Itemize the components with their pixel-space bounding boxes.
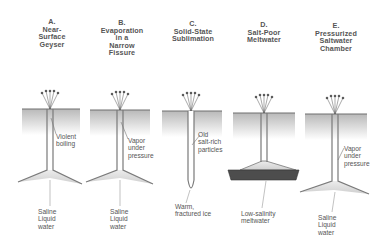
label-vapor-under-pressure-b: Vapor under pressure [128, 137, 154, 159]
annotation-line: Vapor [128, 137, 154, 144]
annotation-line: Old [198, 131, 223, 138]
label-saline-liquid-water-e: Saline Liquid water [318, 214, 336, 236]
label-warm-fractured-ice: Warm, fractured ice [175, 203, 211, 218]
annotation-line: pressure [128, 152, 154, 159]
annotation-line: Vapor [344, 145, 370, 152]
annotation-line: Liquid [110, 215, 128, 222]
label-violent-boiling: Violent boiling [56, 133, 76, 148]
annotation-line: under [128, 144, 154, 151]
label-low-salinity-meltwater: Low-salinity meltwater [241, 210, 275, 225]
plume-icon [41, 90, 59, 109]
annotation-line: under [344, 152, 370, 159]
label-vapor-under-pressure-e: Vapor under pressure [344, 145, 370, 167]
panel-d-graphic [228, 94, 299, 208]
annotation-line: Saline [38, 208, 56, 215]
annotation-line: pressure [344, 160, 370, 167]
annotation-line: Low-salinity [241, 210, 275, 217]
annotation-line: meltwater [241, 217, 275, 224]
label-saline-liquid-water-b: Saline Liquid water [110, 208, 128, 230]
annotation-line: Warm, [175, 203, 211, 210]
annotation-line: water [318, 229, 336, 236]
panel-a-graphic [18, 90, 82, 206]
annotation-line: particles [198, 146, 223, 153]
annotation-line: boiling [56, 140, 76, 147]
annotation-line: Liquid [318, 221, 336, 228]
label-saline-liquid-water-a: Saline Liquid water [38, 208, 56, 230]
annotation-line: water [38, 223, 56, 230]
label-old-salt-rich-particles: Old salt-rich particles [198, 131, 223, 153]
annotation-line: Saline [318, 214, 336, 221]
annotation-line: fractured ice [175, 210, 211, 217]
annotation-line: Liquid [38, 215, 56, 222]
annotation-line: Saline [110, 208, 128, 215]
annotation-line: Violent [56, 133, 76, 140]
annotation-line: water [110, 223, 128, 230]
annotation-line: salt-rich [198, 138, 223, 145]
